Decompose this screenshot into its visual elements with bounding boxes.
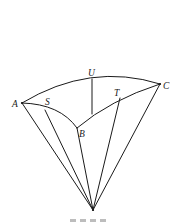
arc-AC [22, 76, 160, 103]
label-T: T [114, 88, 120, 98]
label-U: U [88, 68, 96, 78]
vertex-C [159, 83, 161, 85]
caption-fragment [80, 219, 86, 222]
label-C: C [163, 81, 170, 91]
radius-T [93, 98, 120, 210]
caption-fragment [70, 219, 76, 222]
radius-C [93, 84, 160, 210]
vertex-A [21, 102, 23, 104]
label-B: B [79, 129, 85, 139]
label-A: A [11, 99, 18, 109]
vertex-apex [92, 209, 94, 211]
label-S: S [45, 97, 50, 107]
caption-fragment [100, 219, 106, 222]
cropped-caption [70, 219, 120, 224]
spherical-triangle-diagram: A S U T C B [0, 0, 183, 224]
radius-S [45, 110, 93, 210]
caption-fragment [90, 219, 96, 222]
